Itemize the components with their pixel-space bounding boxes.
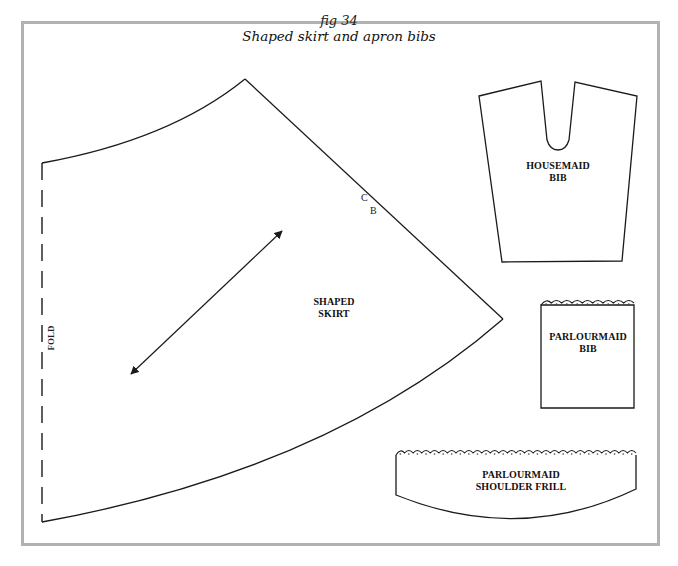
scallop-dot — [417, 453, 419, 455]
housemaid-bib-label-line1: HOUSEMAID — [516, 160, 600, 172]
scallop-dot — [451, 453, 453, 455]
scallop-dot — [494, 453, 496, 455]
mark-c: C — [361, 192, 368, 203]
housemaid-bib-label-line2: BIB — [516, 172, 600, 184]
scallop-dot — [628, 303, 630, 305]
scallop-dot — [571, 453, 573, 455]
shoulder-frill-label-line1: PARLOURMAID — [466, 469, 576, 481]
shaped-skirt-piece — [42, 79, 503, 522]
scallop-dot — [442, 453, 444, 455]
scallop-dot — [425, 453, 427, 455]
scallop-dot — [587, 303, 589, 305]
scallop-dot — [597, 303, 599, 305]
scallop-dot — [545, 453, 547, 455]
scallop-dot — [614, 453, 616, 455]
housemaid-bib-label: HOUSEMAID BIB — [516, 160, 600, 184]
skirt-label-line2: SKIRT — [304, 308, 364, 320]
scallop-dot — [434, 453, 436, 455]
parlourmaid-bib-scallops — [541, 301, 634, 306]
skirt-waist-curve — [42, 79, 245, 163]
skirt-hem-curve — [42, 319, 503, 522]
skirt-label-line1: SHAPED — [304, 296, 364, 308]
parlourmaid-bib-label-line1: PARLOURMAID — [543, 331, 633, 343]
scallop-dot — [566, 303, 568, 305]
parlourmaid-bib-label-line2: BIB — [543, 343, 633, 355]
mark-b: B — [370, 205, 377, 216]
scallop-dot — [545, 303, 547, 305]
scallop-dot — [519, 453, 521, 455]
scallop-dot — [588, 453, 590, 455]
scallop-dot — [528, 453, 530, 455]
scallop-dot — [399, 453, 401, 455]
shoulder-frill-label-line2: SHOULDER FRILL — [466, 481, 576, 493]
scallop-dot — [631, 453, 633, 455]
shoulder-frill-label: PARLOURMAID SHOULDER FRILL — [466, 469, 576, 493]
skirt-label: SHAPED SKIRT — [304, 296, 364, 320]
fold-label: FOLD — [46, 323, 56, 353]
scallop-dot — [468, 453, 470, 455]
scallop-dot — [554, 453, 556, 455]
scallop-dot — [618, 303, 620, 305]
scallop-dot — [579, 453, 581, 455]
grain-line-arrow — [131, 231, 282, 374]
scallop-dot — [605, 453, 607, 455]
scallop-dot — [477, 453, 479, 455]
skirt-side-seam — [245, 79, 503, 319]
scallop-dot — [607, 303, 609, 305]
scallop-edge — [396, 451, 636, 456]
scallop-dot — [459, 453, 461, 455]
shoulder-frill-scallops — [396, 451, 636, 456]
scallop-dot — [502, 453, 504, 455]
scallop-dot — [485, 453, 487, 455]
scallop-dot — [622, 453, 624, 455]
scallop-dot — [556, 303, 558, 305]
scallop-dot — [511, 453, 513, 455]
pattern-drawing — [0, 0, 678, 566]
scallop-dot — [576, 303, 578, 305]
parlourmaid-bib-label: PARLOURMAID BIB — [543, 331, 633, 355]
scallop-dot — [537, 453, 539, 455]
scallop-dot — [562, 453, 564, 455]
scallop-dot — [597, 453, 599, 455]
scallop-dot — [408, 453, 410, 455]
